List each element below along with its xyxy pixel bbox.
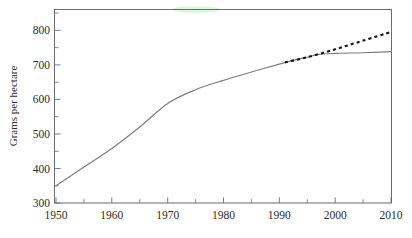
chart-figure: 800 700 600 500 400 300 1950 1960 1970 1… xyxy=(0,0,412,238)
x-tick-label: 1970 xyxy=(156,209,179,221)
series-actual-yield xyxy=(56,52,391,186)
y-tick-label: 400 xyxy=(33,163,51,175)
y-axis-title: Grams per hectare xyxy=(7,66,19,147)
x-tick-label: 1960 xyxy=(100,209,123,221)
x-tick-labels: 1950 1960 1970 1980 1990 2000 2010 xyxy=(45,209,403,221)
y-tick-label: 600 xyxy=(33,93,51,105)
x-tick-label: 1980 xyxy=(212,209,235,221)
y-tick-label: 800 xyxy=(33,24,51,36)
x-tick-label: 2010 xyxy=(380,209,403,221)
x-tick-label: 1990 xyxy=(268,209,291,221)
x-axis-major-ticks xyxy=(56,197,391,203)
y-tick-label: 500 xyxy=(33,128,51,140)
y-tick-label: 300 xyxy=(33,197,51,209)
y-tick-label: 700 xyxy=(33,59,51,71)
x-tick-label: 1950 xyxy=(45,209,68,221)
series-trend-projection xyxy=(285,32,391,62)
y-tick-labels: 800 700 600 500 400 300 xyxy=(33,24,51,209)
x-tick-label: 2000 xyxy=(324,209,347,221)
plot-frame xyxy=(55,10,392,204)
line-chart: 800 700 600 500 400 300 1950 1960 1970 1… xyxy=(0,0,412,238)
